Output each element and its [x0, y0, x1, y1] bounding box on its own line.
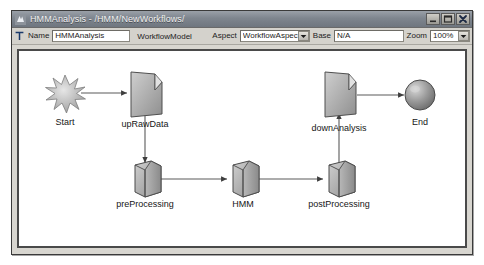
base-input[interactable]: N/A — [334, 30, 404, 42]
aspect-label: Aspect — [212, 31, 236, 41]
workflow-canvas[interactable]: Start upRawData downAnalysis End preProc… — [17, 49, 467, 248]
node-label-upRawData: upRawData — [95, 119, 195, 129]
model-type-text: WorkflowModel — [133, 32, 209, 41]
zoom-label: Zoom — [407, 31, 427, 41]
base-label: Base — [313, 31, 331, 41]
node-start[interactable] — [46, 75, 86, 113]
node-preProcessing[interactable] — [135, 161, 161, 197]
node-upRawData[interactable] — [131, 72, 162, 117]
node-label-postProcessing: postProcessing — [281, 199, 397, 209]
zoom-select-value: 100% — [433, 31, 458, 41]
property-toolbar: Name HMMAnalysis WorkflowModel Aspect Wo… — [12, 28, 472, 45]
workflow-app-icon — [15, 14, 26, 25]
close-button[interactable] — [456, 13, 470, 25]
canvas-area: Start upRawData downAnalysis End preProc… — [12, 45, 472, 254]
name-label: Name — [28, 31, 49, 41]
text-type-icon — [14, 30, 25, 42]
node-end[interactable] — [405, 80, 435, 110]
node-label-preProcessing: preProcessing — [89, 199, 201, 209]
zoom-select[interactable]: 100% — [430, 30, 470, 42]
aspect-select-value: WorkflowAspec — [243, 31, 298, 41]
aspect-select[interactable]: WorkflowAspec — [240, 30, 310, 42]
node-label-HMM: HMM — [199, 199, 287, 209]
name-input[interactable]: HMMAnalysis — [52, 30, 130, 42]
title-bar[interactable]: HMMAnalysis - /HMM/NewWorkflows/ — [12, 11, 472, 28]
chevron-down-icon[interactable] — [458, 31, 469, 41]
chevron-down-icon[interactable] — [298, 31, 309, 41]
node-downAnalysis[interactable] — [325, 72, 356, 117]
window-title: HMMAnalysis - /HMM/NewWorkflows/ — [30, 14, 425, 25]
node-postProcessing[interactable] — [329, 161, 355, 197]
maximize-button[interactable] — [441, 13, 455, 25]
node-HMM[interactable] — [233, 161, 259, 197]
minimize-button[interactable] — [426, 13, 440, 25]
application-window: HMMAnalysis - /HMM/NewWorkflows/ Name — [11, 10, 473, 255]
workflow-diagram — [19, 51, 467, 246]
node-label-end: End — [375, 117, 465, 127]
